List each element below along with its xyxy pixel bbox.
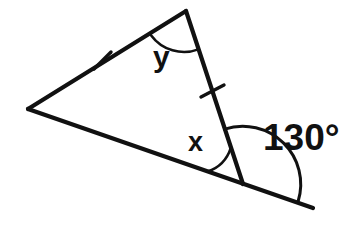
diagram-canvas: y x 130°	[0, 0, 355, 238]
angle-arc-x	[208, 148, 231, 172]
angle-label-x: x	[188, 129, 203, 156]
side-right	[186, 11, 243, 184]
angle-label-y: y	[153, 42, 170, 72]
angle-label-130: 130°	[263, 119, 340, 156]
